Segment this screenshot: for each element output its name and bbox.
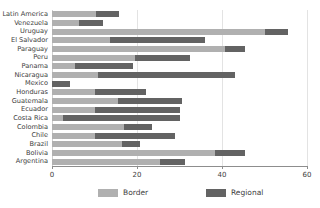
bar-segment-regional	[75, 63, 133, 69]
category-label: Nicaragua	[14, 72, 48, 79]
bar-row	[52, 81, 307, 87]
x-axis-line	[52, 166, 307, 167]
category-label: Colombia	[17, 124, 48, 131]
bar-segment-regional	[110, 37, 205, 43]
plot-area	[52, 10, 307, 166]
bar-segment-regional	[124, 124, 152, 130]
bar-row	[52, 72, 307, 78]
bar-segment-border	[52, 46, 225, 52]
bar-segment-regional	[265, 29, 288, 35]
bar-segment-border	[52, 37, 110, 43]
bar-segment-regional	[122, 141, 140, 147]
legend-label-regional: Regional	[231, 188, 263, 197]
category-label: Guatemala	[12, 98, 48, 105]
bar-segment-border	[52, 133, 95, 139]
category-label: Panama	[22, 63, 48, 70]
bar-row	[52, 141, 307, 147]
bar-segment-regional	[135, 55, 190, 61]
bar-row	[52, 107, 307, 113]
bar-segment-regional	[79, 20, 103, 26]
category-label: Ecuador	[21, 106, 48, 113]
bar-row	[52, 11, 307, 17]
x-tick-label: 40	[218, 171, 227, 179]
category-label: Uruguay	[20, 28, 48, 35]
x-tick-label: 60	[303, 171, 312, 179]
bar-segment-regional	[215, 150, 245, 156]
category-label: El Salvador	[11, 37, 48, 44]
bar-segment-border	[52, 141, 122, 147]
bar-row	[52, 98, 307, 104]
bar-segment-regional	[225, 46, 245, 52]
legend-item-border: Border	[98, 188, 148, 197]
category-label: Brazil	[30, 141, 48, 148]
bar-rows	[52, 10, 307, 166]
bar-segment-border	[52, 29, 265, 35]
bar-segment-regional	[52, 81, 70, 87]
bar-segment-regional	[95, 89, 146, 95]
category-label: Argentina	[16, 158, 48, 165]
x-tick	[52, 166, 53, 169]
bar-row	[52, 29, 307, 35]
bar-row	[52, 55, 307, 61]
bar-segment-border	[52, 11, 96, 17]
bar-row	[52, 20, 307, 26]
border-swatch-icon	[98, 189, 118, 197]
category-label: Venezuela	[14, 20, 48, 27]
bar-segment-border	[52, 159, 160, 165]
category-label: Paraguay	[17, 46, 48, 53]
bar-row	[52, 150, 307, 156]
bar-row	[52, 159, 307, 165]
x-tick-label: 0	[50, 171, 54, 179]
bar-row	[52, 89, 307, 95]
category-label: Chile	[31, 132, 48, 139]
category-label: Mexico	[25, 80, 48, 87]
bar-segment-regional	[96, 11, 119, 17]
x-tick-label: 20	[133, 171, 142, 179]
bar-segment-border	[52, 115, 63, 121]
category-label: Bolivia	[26, 150, 48, 157]
bar-segment-border	[52, 124, 124, 130]
bar-segment-border	[52, 89, 95, 95]
regional-swatch-icon	[206, 189, 226, 197]
bar-segment-regional	[98, 72, 235, 78]
bar-row	[52, 46, 307, 52]
x-tick	[222, 166, 223, 169]
category-axis-labels: Latin AmericaVenezuelaUruguayEl Salvador…	[0, 10, 48, 166]
x-tick	[137, 166, 138, 169]
bar-row	[52, 133, 307, 139]
bar-segment-border	[52, 63, 75, 69]
bar-row	[52, 115, 307, 121]
bar-segment-border	[52, 107, 95, 113]
category-label: Honduras	[16, 89, 48, 96]
bar-segment-border	[52, 150, 215, 156]
category-label: Costa Rica	[13, 115, 48, 122]
bar-segment-regional	[118, 98, 182, 104]
bar-segment-regional	[95, 133, 175, 139]
bar-segment-regional	[160, 159, 185, 165]
title-crop	[0, 0, 320, 6]
x-tick	[307, 166, 308, 169]
bar-row	[52, 37, 307, 43]
bar-row	[52, 124, 307, 130]
bar-row	[52, 63, 307, 69]
category-label: Peru	[33, 54, 48, 61]
legend-label-border: Border	[123, 188, 148, 197]
bar-segment-regional	[95, 107, 180, 113]
bar-segment-border	[52, 20, 79, 26]
chart-legend: Border Regional	[0, 188, 320, 204]
legend-item-regional: Regional	[206, 188, 263, 197]
stacked-bar-chart: Latin AmericaVenezuelaUruguayEl Salvador…	[0, 0, 320, 208]
bar-segment-border	[52, 55, 135, 61]
bar-segment-border	[52, 98, 118, 104]
gridline-60	[307, 10, 308, 166]
bar-segment-regional	[63, 115, 180, 121]
category-label: Latin America	[2, 11, 48, 18]
bar-segment-border	[52, 72, 98, 78]
